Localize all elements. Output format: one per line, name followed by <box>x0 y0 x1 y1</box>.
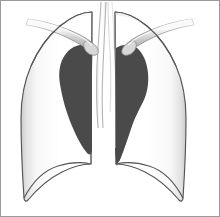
lung-anatomy-svg <box>0 0 220 217</box>
lung-illustration-figure <box>0 0 220 217</box>
